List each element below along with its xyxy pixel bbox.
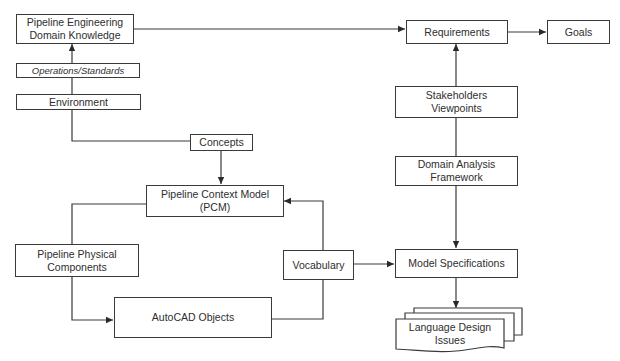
language-design-issues-label: Language Design Issues	[396, 321, 504, 347]
edge-environment-concepts	[72, 109, 190, 141]
connector-lines	[0, 0, 620, 361]
edge-physical-components-autocad	[72, 276, 113, 320]
node-autocad-objects: AutoCAD Objects	[114, 297, 272, 338]
node-model-specifications: Model Specifications	[395, 249, 518, 278]
node-stakeholders-viewpoints: Stakeholders Viewpoints	[395, 86, 518, 118]
diagram-canvas: Pipeline Engineering Domain Knowledge Op…	[0, 0, 620, 361]
edge-autocad-vocabulary	[271, 279, 323, 319]
edge-vocabulary-pcm	[284, 201, 323, 250]
node-requirements: Requirements	[406, 20, 508, 44]
node-goals: Goals	[547, 20, 610, 44]
node-pcm: Pipeline Context Model (PCM)	[146, 185, 284, 217]
node-vocabulary: Vocabulary	[283, 250, 354, 280]
node-concepts: Concepts	[190, 134, 253, 151]
node-operations-standards: Operations/Standards	[16, 63, 140, 78]
node-language-design-issues: Language Design Issues	[394, 306, 524, 356]
node-domain-analysis-framework: Domain Analysis Framework	[395, 156, 518, 186]
edge-pcm-physical-components	[72, 204, 146, 244]
node-physical-components: Pipeline Physical Components	[15, 244, 139, 277]
node-environment: Environment	[16, 94, 141, 110]
node-domain-knowledge: Pipeline Engineering Domain Knowledge	[16, 14, 134, 44]
